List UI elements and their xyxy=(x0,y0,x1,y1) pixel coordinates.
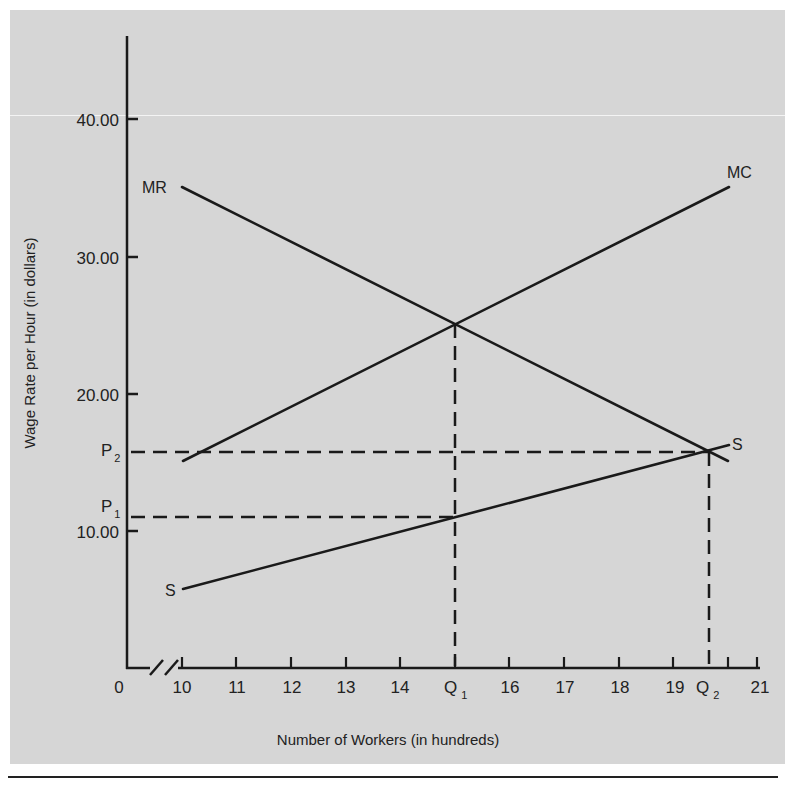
x-tick-label-11: 11 xyxy=(228,678,246,697)
chart-svg: 40.00 30.00 20.00 10.00 P2 P1 0 10 11 12… xyxy=(0,0,793,791)
s-label-left: S xyxy=(165,582,176,599)
p1-label: P1 xyxy=(101,497,120,520)
mc-label: MC xyxy=(727,164,752,181)
x-axis-title: Number of Workers (in hundreds) xyxy=(277,731,499,748)
mr-label: MR xyxy=(142,179,167,196)
p2-label: P2 xyxy=(101,441,120,464)
s-label-right: S xyxy=(732,436,743,453)
q2-label: Q2 xyxy=(696,678,719,701)
y-tick-label-40: 40.00 xyxy=(76,111,119,130)
x-tick-label-14: 14 xyxy=(391,678,410,697)
axis-break-mark-1 xyxy=(150,660,163,675)
x-tick-label-18: 18 xyxy=(611,678,630,697)
x-tick-label-16: 16 xyxy=(501,678,520,697)
y-axis-title: Wage Rate per Hour (in dollars) xyxy=(21,237,38,448)
q1-label: Q1 xyxy=(444,678,467,701)
y-tick-label-20: 20.00 xyxy=(76,386,119,405)
x-tick-label-21: 21 xyxy=(751,678,770,697)
reference-lines xyxy=(131,324,709,666)
x-tick-label-0: 0 xyxy=(114,678,123,697)
y-tick-label-30: 30.00 xyxy=(76,249,119,268)
y-tick-label-10: 10.00 xyxy=(76,523,119,542)
axis-break-mark-2 xyxy=(165,660,178,675)
x-tick-label-19: 19 xyxy=(666,678,685,697)
x-tick-label-10: 10 xyxy=(173,678,192,697)
x-tick-label-17: 17 xyxy=(556,678,575,697)
x-tick-label-12: 12 xyxy=(283,678,302,697)
x-tick-label-13: 13 xyxy=(337,678,356,697)
